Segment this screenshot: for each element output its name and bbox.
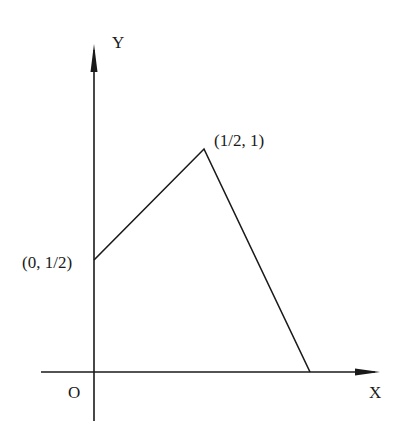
x-axis — [41, 369, 380, 376]
origin-label: O — [68, 383, 80, 402]
y-axis — [91, 44, 98, 421]
y-axis-arrow-icon — [91, 44, 98, 72]
x-axis-label: X — [369, 383, 381, 402]
point-label-y-intercept: (0, 1/2) — [22, 253, 72, 272]
y-axis-label: Y — [112, 33, 124, 52]
x-axis-arrow-icon — [355, 369, 380, 376]
graph-diagram: Y X O (1/2, 1) (0, 1/2) — [0, 0, 407, 442]
point-label-peak: (1/2, 1) — [214, 131, 264, 150]
function-graph-line — [94, 149, 310, 372]
